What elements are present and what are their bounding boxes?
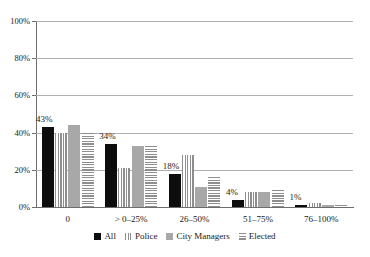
x-axis-line (36, 207, 354, 208)
x-axis-tick-label: 0 (36, 214, 99, 225)
bar[interactable] (322, 205, 334, 207)
bar[interactable] (335, 205, 347, 207)
plot-area: 43%34%18%4%1% (36, 21, 353, 207)
legend-item[interactable]: All (94, 231, 116, 241)
legend-swatch-icon (94, 233, 101, 240)
bar-data-label: 4% (226, 188, 238, 197)
bar-chart: 0%20%40%60%80%100% 43%34%18%4%1% 0> 0–25… (0, 0, 370, 257)
legend-item-label: Elected (249, 231, 276, 241)
bar[interactable] (232, 200, 244, 207)
y-axis-tick-label: 0% (0, 203, 30, 212)
legend-item[interactable]: Elected (239, 231, 276, 241)
y-axis-tick (32, 58, 36, 59)
x-axis-tick-label: 26–50% (163, 214, 226, 225)
y-axis-tick (32, 133, 36, 134)
legend-swatch-icon (239, 233, 246, 240)
bar[interactable] (195, 187, 207, 207)
bar[interactable] (272, 190, 284, 207)
bar[interactable] (118, 168, 130, 207)
y-axis-tick-label: 60% (0, 91, 30, 100)
bar[interactable] (105, 144, 117, 207)
bar[interactable] (132, 146, 144, 207)
bar[interactable] (82, 133, 94, 207)
bar[interactable] (169, 174, 181, 207)
y-axis-tick (32, 207, 36, 208)
legend-swatch-icon (125, 233, 132, 240)
x-axis-tick-label: 51–75% (226, 214, 289, 225)
legend-item-label: City Managers (176, 231, 229, 241)
legend-item-label: Police (135, 231, 158, 241)
bar-group: 1% (290, 21, 353, 207)
y-axis-tick (32, 170, 36, 171)
y-axis-tick (32, 21, 36, 22)
legend-item[interactable]: City Managers (166, 231, 229, 241)
x-axis: 0> 0–25%26–50%51–75%76–100% (36, 214, 353, 230)
y-axis-tick-label: 40% (0, 129, 30, 138)
bar[interactable] (258, 192, 270, 207)
bar-group: 18% (163, 21, 226, 207)
bar-data-label: 18% (163, 162, 180, 171)
bar[interactable] (182, 155, 194, 207)
legend-swatch-icon (166, 233, 173, 240)
bar[interactable] (68, 125, 80, 207)
y-axis-tick-label: 100% (0, 17, 30, 26)
y-axis-tick-label: 80% (0, 54, 30, 63)
bar-group: 43% (36, 21, 99, 207)
bar[interactable] (295, 205, 307, 207)
bar[interactable] (42, 127, 54, 207)
y-axis-tick (32, 95, 36, 96)
legend-item[interactable]: Police (125, 231, 158, 241)
bar-group: 34% (99, 21, 162, 207)
bar-data-label: 1% (290, 193, 302, 202)
legend-item-label: All (104, 231, 116, 241)
chart-legend: AllPoliceCity ManagersElected (0, 231, 370, 241)
bar[interactable] (208, 177, 220, 207)
bar[interactable] (245, 192, 257, 207)
bar-data-label: 43% (36, 115, 53, 124)
bar[interactable] (55, 133, 67, 207)
bar-group: 4% (226, 21, 289, 207)
bar[interactable] (145, 146, 157, 207)
bar-data-label: 34% (99, 132, 116, 141)
x-axis-tick-label: > 0–25% (99, 214, 162, 225)
bar[interactable] (309, 203, 321, 207)
x-axis-tick-label: 76–100% (290, 214, 353, 225)
y-axis-tick-label: 20% (0, 166, 30, 175)
